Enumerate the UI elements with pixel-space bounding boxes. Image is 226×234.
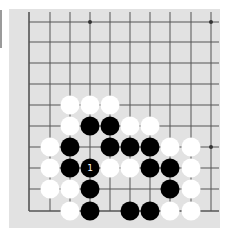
white-stone[interactable] — [161, 138, 180, 157]
board-intersection[interactable] — [41, 54, 59, 72]
board-intersection[interactable] — [141, 75, 159, 93]
board-intersection[interactable] — [41, 96, 59, 114]
board-intersection[interactable] — [182, 54, 200, 72]
black-stone[interactable] — [81, 202, 100, 221]
board-intersection[interactable] — [20, 33, 38, 51]
board-intersection[interactable] — [20, 96, 38, 114]
board-intersection[interactable] — [141, 180, 159, 198]
white-stone[interactable] — [61, 117, 80, 136]
board-intersection[interactable] — [81, 54, 99, 72]
white-stone[interactable] — [41, 159, 60, 178]
board-intersection[interactable] — [202, 180, 220, 198]
board-intersection[interactable] — [141, 33, 159, 51]
board-intersection[interactable] — [121, 33, 139, 51]
board-intersection[interactable] — [121, 96, 139, 114]
black-stone[interactable] — [141, 159, 160, 178]
board-intersection[interactable] — [161, 13, 179, 31]
white-stone[interactable] — [81, 96, 100, 115]
board-intersection[interactable] — [20, 13, 38, 31]
black-stone[interactable] — [81, 180, 100, 199]
black-stone[interactable] — [61, 138, 80, 157]
board-intersection[interactable] — [121, 75, 139, 93]
board-intersection[interactable] — [161, 96, 179, 114]
white-stone[interactable] — [161, 202, 180, 221]
board-intersection[interactable] — [20, 180, 38, 198]
board-intersection[interactable] — [20, 54, 38, 72]
white-stone[interactable] — [121, 117, 140, 136]
black-stone[interactable] — [141, 138, 160, 157]
board-intersection[interactable] — [101, 75, 119, 93]
white-stone[interactable] — [121, 159, 140, 178]
black-stone[interactable] — [81, 117, 100, 136]
black-stone[interactable] — [121, 202, 140, 221]
white-stone[interactable] — [182, 202, 201, 221]
board-intersection[interactable] — [81, 138, 99, 156]
board-intersection[interactable] — [202, 96, 220, 114]
board-intersection[interactable] — [41, 13, 59, 31]
board-intersection[interactable] — [202, 13, 220, 31]
board-intersection[interactable] — [202, 138, 220, 156]
black-stone[interactable] — [101, 138, 120, 157]
board-intersection[interactable] — [81, 33, 99, 51]
board-intersection[interactable] — [182, 13, 200, 31]
board-intersection[interactable] — [202, 202, 220, 220]
black-stone[interactable] — [141, 202, 160, 221]
white-stone[interactable] — [182, 159, 201, 178]
board-intersection[interactable] — [202, 117, 220, 135]
board-intersection[interactable] — [182, 33, 200, 51]
black-stone[interactable] — [121, 138, 140, 157]
white-stone[interactable] — [182, 138, 201, 157]
white-stone[interactable] — [141, 117, 160, 136]
board-intersection[interactable] — [121, 54, 139, 72]
board-intersection[interactable] — [161, 33, 179, 51]
board-intersection[interactable] — [20, 138, 38, 156]
board-intersection[interactable] — [202, 75, 220, 93]
board-intersection[interactable] — [61, 54, 79, 72]
board-intersection[interactable] — [161, 117, 179, 135]
board-intersection[interactable] — [121, 180, 139, 198]
white-stone[interactable] — [61, 180, 80, 199]
board-intersection[interactable] — [182, 117, 200, 135]
black-stone[interactable]: 1 — [81, 159, 100, 178]
board-intersection[interactable] — [101, 33, 119, 51]
board-intersection[interactable] — [101, 180, 119, 198]
board-intersection[interactable] — [81, 13, 99, 31]
white-stone[interactable] — [182, 180, 201, 199]
black-stone[interactable] — [161, 180, 180, 199]
board-intersection[interactable] — [20, 117, 38, 135]
board-intersection[interactable] — [101, 202, 119, 220]
board-intersection[interactable] — [101, 54, 119, 72]
board-intersection[interactable] — [81, 75, 99, 93]
black-stone[interactable] — [101, 117, 120, 136]
white-stone[interactable] — [61, 202, 80, 221]
board-intersection[interactable] — [41, 33, 59, 51]
board-intersection[interactable] — [141, 54, 159, 72]
board-intersection[interactable] — [61, 13, 79, 31]
board-intersection[interactable] — [141, 96, 159, 114]
board-intersection[interactable] — [121, 13, 139, 31]
board-intersection[interactable] — [202, 54, 220, 72]
board-intersection[interactable] — [20, 75, 38, 93]
board-intersection[interactable] — [41, 202, 59, 220]
board-intersection[interactable] — [61, 75, 79, 93]
board-intersection[interactable] — [20, 159, 38, 177]
white-stone[interactable] — [41, 180, 60, 199]
board-intersection[interactable] — [161, 54, 179, 72]
white-stone[interactable] — [61, 96, 80, 115]
white-stone[interactable] — [101, 159, 120, 178]
board-intersection[interactable] — [41, 117, 59, 135]
board-intersection[interactable] — [141, 13, 159, 31]
board-intersection[interactable] — [202, 159, 220, 177]
board-intersection[interactable] — [161, 75, 179, 93]
black-stone[interactable] — [161, 159, 180, 178]
board-intersection[interactable] — [202, 33, 220, 51]
board-intersection[interactable] — [182, 75, 200, 93]
black-stone[interactable] — [61, 159, 80, 178]
board-intersection[interactable] — [101, 13, 119, 31]
white-stone[interactable] — [101, 96, 120, 115]
white-stone[interactable] — [41, 138, 60, 157]
board-intersection[interactable] — [61, 33, 79, 51]
board-intersection[interactable] — [20, 202, 38, 220]
board-intersection[interactable] — [182, 96, 200, 114]
board-intersection[interactable] — [41, 75, 59, 93]
